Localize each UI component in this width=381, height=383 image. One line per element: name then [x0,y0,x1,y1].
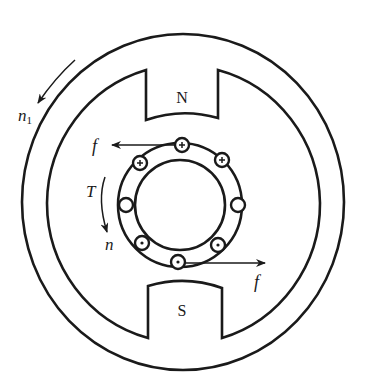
force-label-top: f [92,136,100,156]
stator-inner-outline [47,70,320,338]
conductor-bottom-right [211,238,225,252]
field-speed-label: n1 [18,106,32,126]
force-label-bottom: f [254,272,262,292]
conductor-right [231,198,245,212]
conductor-left [119,198,133,212]
conductor-bottom [171,255,185,269]
motor-diagram: N S n1 T n [0,0,381,383]
south-pole-label: S [178,302,187,319]
rotor-inner-ring [135,160,225,250]
north-pole-label: N [176,89,188,106]
torque-label: T [86,182,97,201]
conductor-bottom-left [135,236,149,250]
conductor-top-left [133,156,147,170]
rotor-rotation-arrow [101,177,107,232]
conductor-top [175,138,189,152]
conductor-top-right [215,153,229,167]
stator-outer-ring [22,34,344,370]
rotor-speed-label: n [105,235,114,254]
